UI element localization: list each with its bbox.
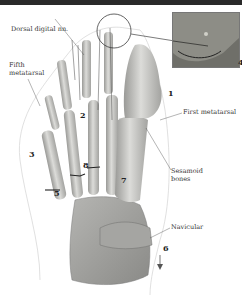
marker-2: 2: [80, 110, 86, 120]
marker-7: 7: [121, 175, 127, 185]
label-first-metatarsal: First metatarsal: [183, 109, 236, 116]
marker-6: 6: [163, 243, 169, 253]
label-sesamoid-line2: bones: [171, 176, 190, 183]
label-sesamoid-line1: Sesamoid: [171, 168, 203, 175]
inset-photo-toe: [172, 12, 240, 68]
label-dorsal-digital-nerves: Dorsal digital nn.: [11, 26, 68, 33]
marker-1: 1: [168, 88, 174, 98]
label-fifth-metatarsal-line1: Fifth: [9, 62, 25, 69]
marker-3: 3: [29, 149, 35, 159]
label-navicular: Navicular: [171, 224, 203, 231]
marker-5: 5: [54, 188, 60, 198]
label-fifth-metatarsal-line2: metatarsal: [9, 70, 44, 77]
marker-8: 8: [83, 160, 89, 170]
marker-4: 4: [238, 57, 242, 67]
